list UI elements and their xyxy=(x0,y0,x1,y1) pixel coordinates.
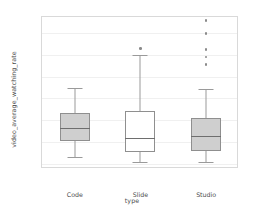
upper-whisker-cap xyxy=(133,55,148,56)
x-tick-label-slide: Slide xyxy=(133,191,148,198)
outlier-point xyxy=(205,19,208,22)
lower-whisker-cap xyxy=(133,162,148,163)
lower-whisker-cap xyxy=(67,157,82,158)
upper-whisker-cap xyxy=(67,88,82,89)
upper-whisker xyxy=(140,55,141,111)
upper-whisker xyxy=(74,88,75,113)
box-iqr xyxy=(191,118,221,151)
lower-whisker xyxy=(140,152,141,163)
outlier-point xyxy=(205,48,208,51)
outlier-point xyxy=(205,32,208,35)
boxplot-studio xyxy=(173,17,239,167)
upper-whisker-cap xyxy=(199,89,214,90)
box-iqr xyxy=(125,111,155,151)
outlier-point xyxy=(205,56,208,59)
outlier-point xyxy=(139,47,142,50)
boxplot-code xyxy=(42,17,108,167)
median-line xyxy=(60,128,90,129)
upper-whisker xyxy=(206,89,207,118)
outlier-point xyxy=(205,63,208,66)
boxplot-slide xyxy=(108,17,174,167)
x-tick-label-studio: Studio xyxy=(196,191,216,198)
y-axis-label: video_average_watching_rate xyxy=(10,40,17,160)
median-line xyxy=(125,138,155,139)
boxplot-chart: video_average_watching_rate type 0.00.10… xyxy=(0,0,264,213)
lower-whisker xyxy=(74,141,75,157)
lower-whisker-cap xyxy=(199,162,214,163)
x-axis-label: type xyxy=(0,197,264,204)
lower-whisker xyxy=(206,151,207,163)
median-line xyxy=(191,136,221,137)
x-tick-label-code: Code xyxy=(67,191,83,198)
plot-area: 0.00.10.20.30.40.50.6 CodeSlideStudio xyxy=(41,16,238,168)
box-iqr xyxy=(60,113,90,141)
